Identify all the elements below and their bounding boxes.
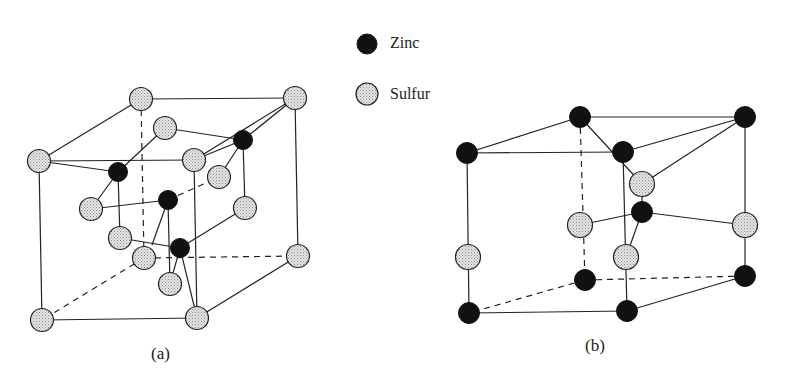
zinc-atom <box>457 143 478 164</box>
sulfur-legend-icon <box>356 83 378 105</box>
sulfur-atom <box>130 88 153 111</box>
sulfur-atom <box>31 309 54 332</box>
zinc-atom <box>735 107 756 128</box>
sulfur-atom <box>133 247 156 270</box>
zinc-atom <box>570 107 591 128</box>
sulfur-atom <box>733 213 758 238</box>
zinc-atom <box>617 301 638 322</box>
sulfur-atom <box>284 87 307 110</box>
sulfur-legend-label: Sulfur <box>390 86 430 102</box>
sulfur-atom <box>630 172 655 197</box>
sulfur-atom <box>234 197 257 220</box>
sulfur-atom <box>208 166 231 189</box>
zinc-atom <box>575 270 596 291</box>
sulfur-atom <box>28 150 51 173</box>
sulfur-atom <box>154 117 177 140</box>
legend <box>356 34 378 105</box>
zinc-atom <box>459 303 480 324</box>
zinc-atom <box>613 142 634 163</box>
zinc-atom <box>735 266 756 287</box>
zinc-atom <box>171 239 190 258</box>
sulfur-atom <box>287 245 310 268</box>
sulfur-atom <box>568 213 593 238</box>
figure-b-caption: (b) <box>585 337 605 354</box>
sulfur-atom <box>159 273 182 296</box>
zinc-legend-label: Zinc <box>390 35 419 51</box>
zinc-atom <box>632 202 653 223</box>
zns-crystal-diagram <box>0 0 785 384</box>
figure-b-wurtzite <box>467 117 745 313</box>
sulfur-atom <box>456 245 481 270</box>
sulfur-atom <box>614 245 639 270</box>
sulfur-atom <box>186 307 209 330</box>
sulfur-atom <box>109 227 132 250</box>
zinc-atom <box>109 163 128 182</box>
zinc-atom <box>159 191 178 210</box>
figure-a-caption: (a) <box>151 345 170 362</box>
sulfur-atom <box>80 198 103 221</box>
zinc-legend-icon <box>357 34 377 54</box>
zinc-atom <box>234 131 253 150</box>
sulfur-atom <box>183 149 206 172</box>
